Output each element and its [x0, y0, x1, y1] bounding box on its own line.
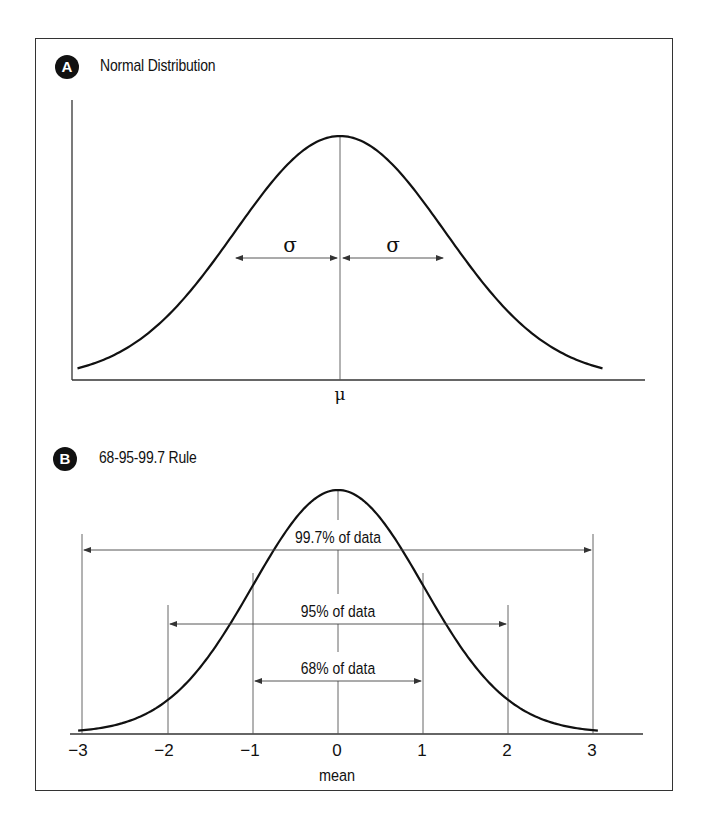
x-axis-label-mean: mean: [319, 766, 355, 784]
interval-label-68: 68% of data: [301, 659, 376, 678]
tick-label-minus-1: −1: [240, 741, 259, 760]
tick-label-plus-2: 2: [502, 741, 511, 760]
normal-distribution-figure: A Normal Distribution B 68-95-99.7 Rule …: [0, 0, 708, 822]
tick-label-plus-1: 1: [417, 741, 426, 760]
tick-label-0: 0: [332, 741, 341, 760]
panel-a-mu-label: μ: [334, 384, 345, 404]
tick-label-minus-3: −3: [68, 741, 87, 760]
interval-label-95: 95% of data: [301, 602, 376, 621]
panel-a-chart: σ σ μ: [72, 100, 645, 404]
panel-a-sigma-right-label: σ: [386, 233, 400, 257]
tick-label-minus-2: −2: [154, 741, 173, 760]
charts-svg: σ σ μ 99.7% of data: [0, 0, 708, 822]
interval-label-99-7: 99.7% of data: [295, 528, 381, 547]
tick-label-plus-3: 3: [587, 741, 596, 760]
panel-a-sigma-left-label: σ: [283, 233, 297, 257]
panel-b-chart: 99.7% of data 95% of data 68% of data −3…: [68, 490, 643, 784]
